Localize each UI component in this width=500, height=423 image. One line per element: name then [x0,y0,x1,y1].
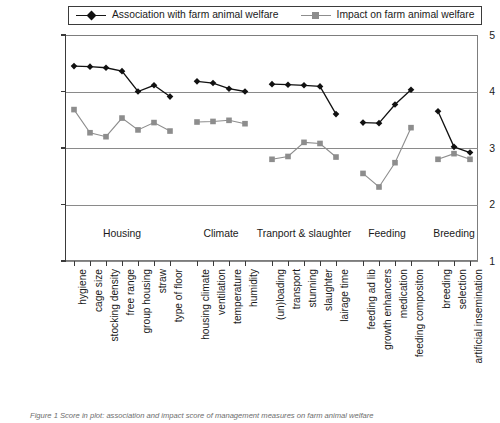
y-tick-label: 2 [439,199,495,210]
x-tick-label: lairage time [340,269,350,322]
x-tick-mark [154,261,155,266]
x-tick-mark [411,261,412,266]
figure-caption: Figure 1 Score in plot: association and … [30,411,480,421]
legend-label-impact: Impact on farm animal welfare [337,10,475,20]
chart-legend: Association with farm animal welfare Imp… [68,6,482,25]
x-tick-label: hygiene [78,269,88,305]
x-tick-mark [245,261,246,266]
x-tick-label: artificial insemination [474,269,484,364]
y-tick-label: 4 [439,86,495,97]
x-tick-mark [90,261,91,266]
legend-label-association: Association with farm animal welfare [112,10,279,20]
x-tick-mark [106,261,107,266]
x-tick-mark [454,261,455,266]
x-tick-label: slaughter [324,269,334,311]
y-tick-mark [61,260,66,261]
x-tick-label: feeding compositon [415,269,425,357]
x-tick-label: selection [458,269,468,309]
x-tick-mark [363,261,364,266]
line-square-marker-icon [301,10,331,20]
y-tick-label: 3 [439,143,495,154]
x-tick-label: humidity [249,269,259,307]
line-diamond-marker-icon [76,10,106,20]
gridline-y-3 [66,148,478,149]
legend-entry-association: Association with farm animal welfare [76,10,279,20]
y-tick-mark [61,91,66,92]
y-tick-mark [61,204,66,205]
x-tick-label: temperature [233,269,243,324]
x-tick-mark [304,261,305,266]
x-tick-mark [470,261,471,266]
y-tick-mark [61,34,66,35]
x-tick-mark [320,261,321,266]
x-tick-label: stocking density [110,269,120,341]
gridline-y-2 [66,205,478,206]
x-tick-mark [122,261,123,266]
x-tick-label: feeding ad lib [367,269,377,330]
x-tick-mark [395,261,396,266]
x-tick-label: (un)loading [276,269,286,320]
x-tick-label: transport [292,269,302,309]
x-tick-label: ventilation [217,269,227,315]
x-tick-label: medication [399,269,409,318]
x-tick-label: stunning [308,269,318,308]
x-tick-label: straw [158,269,168,293]
x-tick-mark [213,261,214,266]
x-tick-mark [438,261,439,266]
legend-entry-impact: Impact on farm animal welfare [301,10,475,20]
x-tick-mark [272,261,273,266]
x-tick-mark [288,261,289,266]
x-tick-mark [74,261,75,266]
x-tick-label: growth enhancers [383,269,393,350]
x-tick-label: breeding [442,269,452,309]
x-tick-mark [197,261,198,266]
y-tick-label: 5 [439,30,495,41]
x-tick-label: housing climate [201,269,211,340]
x-tick-mark [170,261,171,266]
y-tick-label: 1 [439,256,495,267]
x-tick-mark [379,261,380,266]
x-tick-mark [336,261,337,266]
x-tick-label: free range [126,269,136,315]
x-tick-label: group housing [142,269,152,334]
group-label-housing: Housing [72,228,172,240]
group-label-breeding: Breeding [404,228,500,240]
gridline-y-4 [66,92,478,93]
y-tick-mark [61,147,66,148]
x-tick-mark [138,261,139,266]
x-tick-label: cage size [94,269,104,312]
x-tick-label: type of floor [174,269,184,322]
x-tick-mark [229,261,230,266]
